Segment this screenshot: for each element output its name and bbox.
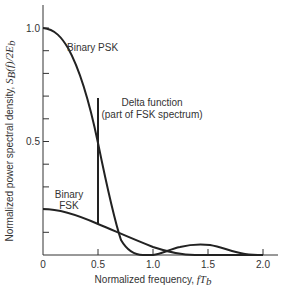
x-tick-label-0: 0 xyxy=(40,259,46,270)
y-tick-label-1.0: 1.0 xyxy=(26,23,40,34)
y-axis-label: Normalized power spectral density, SB(f)… xyxy=(3,40,17,242)
fsk-label-line1: Binary xyxy=(55,189,83,200)
psk-curve xyxy=(43,28,263,255)
fsk-curve xyxy=(43,209,263,255)
y-tick-label-0.5: 0.5 xyxy=(26,136,40,147)
fsk-label-line2: FSK xyxy=(59,200,79,211)
x-tick-label-2.0: 2.0 xyxy=(256,259,270,270)
x-tick-label-1.5: 1.5 xyxy=(201,259,215,270)
x-tick-label-0.5: 0.5 xyxy=(91,259,105,270)
y-ticks xyxy=(43,28,49,232)
psk-label: Binary PSK xyxy=(67,42,118,53)
x-tick-label-1.0: 1.0 xyxy=(146,259,160,270)
delta-label-line1: Delta function xyxy=(121,97,182,108)
psd-chart: 1.0 0.5 0 0.5 1.0 1.5 2.0 Normalized fre… xyxy=(0,0,296,293)
x-axis-label: Normalized frequency, fTb xyxy=(95,273,212,287)
delta-label-line2: (part of FSK spectrum) xyxy=(101,109,202,120)
